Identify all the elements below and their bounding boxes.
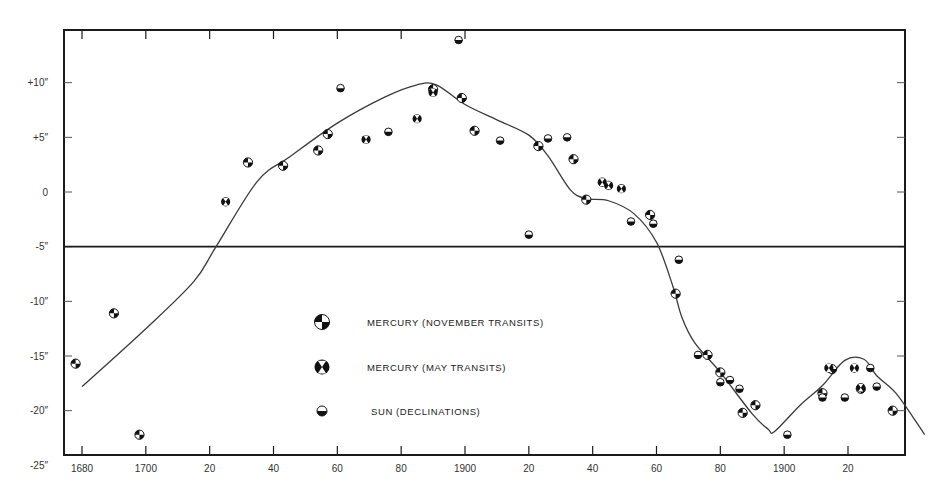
data-point xyxy=(525,231,533,239)
y-tick-label: -10″ xyxy=(30,296,48,307)
x-tick-label: 1700 xyxy=(135,463,158,474)
data-point xyxy=(726,376,734,384)
data-point xyxy=(534,141,543,150)
data-point xyxy=(824,363,833,372)
data-point xyxy=(221,197,230,206)
fit-curve xyxy=(82,83,925,435)
smoothed-curve xyxy=(82,83,925,435)
x-tick-label: 20 xyxy=(842,463,854,474)
plot-frame xyxy=(64,30,905,455)
x-tick-label: 40 xyxy=(587,463,599,474)
data-point xyxy=(428,88,437,97)
data-point xyxy=(278,161,287,170)
data-point xyxy=(361,135,370,144)
data-point xyxy=(784,431,792,439)
chart: +10″+5″0-5″-10″-15″-20″-25″ 168017002040… xyxy=(0,0,932,493)
legend-marker xyxy=(315,315,330,330)
x-tick-label: 20 xyxy=(523,463,535,474)
x-tick-label: 1680 xyxy=(71,463,94,474)
data-point xyxy=(71,359,80,368)
data-point xyxy=(323,129,332,138)
data-point xyxy=(544,135,552,143)
data-point xyxy=(569,155,578,164)
data-point xyxy=(582,195,591,204)
data-point xyxy=(736,385,744,393)
data-point xyxy=(867,364,875,372)
data-point xyxy=(413,114,422,123)
x-tick-label: 60 xyxy=(332,463,344,474)
data-point xyxy=(841,394,849,402)
data-point xyxy=(738,408,747,417)
data-point xyxy=(385,128,393,136)
y-tick-label: +5″ xyxy=(33,132,48,143)
data-point xyxy=(888,406,897,415)
data-point xyxy=(646,210,655,219)
data-point xyxy=(675,256,683,264)
y-tick-label: -15″ xyxy=(30,351,48,362)
data-point xyxy=(650,220,658,228)
data-point xyxy=(470,126,479,135)
data-point xyxy=(243,158,252,167)
data-point xyxy=(694,351,702,359)
legend-label: MERCURY (NOVEMBER TRANSITS) xyxy=(367,317,544,328)
data-point xyxy=(337,84,345,92)
y-tick-label: +10″ xyxy=(27,77,48,88)
legend-label: MERCURY (MAY TRANSITS) xyxy=(367,362,506,373)
legend-marker xyxy=(317,406,327,416)
x-tick-label: 20 xyxy=(204,463,216,474)
y-tick-label: -5″ xyxy=(36,241,49,252)
data-point xyxy=(819,394,827,402)
data-points xyxy=(71,36,897,439)
data-point xyxy=(873,383,881,391)
data-point xyxy=(716,368,725,377)
data-point xyxy=(314,146,323,155)
data-point xyxy=(563,134,571,142)
data-point xyxy=(496,137,504,145)
data-point xyxy=(457,93,466,102)
x-tick-label: 1900 xyxy=(454,463,477,474)
y-tick-label: -25″ xyxy=(30,460,48,471)
data-point xyxy=(135,430,144,439)
data-point xyxy=(717,378,725,386)
x-tick-label: 1900 xyxy=(773,463,796,474)
plot-border xyxy=(64,30,905,455)
data-point xyxy=(850,363,859,372)
x-tick-label: 80 xyxy=(715,463,727,474)
x-tick-label: 80 xyxy=(396,463,408,474)
data-point xyxy=(455,36,463,44)
data-point xyxy=(856,383,865,392)
y-tick-label: -20″ xyxy=(30,405,48,416)
data-point xyxy=(109,309,118,318)
data-point xyxy=(627,218,635,226)
data-point xyxy=(703,350,712,359)
legend-marker xyxy=(315,360,330,375)
x-tick-label: 60 xyxy=(651,463,663,474)
data-point xyxy=(671,289,680,298)
x-tick-label: 40 xyxy=(268,463,280,474)
legend-label: SUN (DECLINATIONS) xyxy=(371,406,480,417)
data-point xyxy=(751,401,760,410)
y-tick-label: 0 xyxy=(42,187,48,198)
data-point xyxy=(617,184,626,193)
data-point xyxy=(604,181,613,190)
legend: MERCURY (NOVEMBER TRANSITS)MERCURY (MAY … xyxy=(315,315,544,418)
